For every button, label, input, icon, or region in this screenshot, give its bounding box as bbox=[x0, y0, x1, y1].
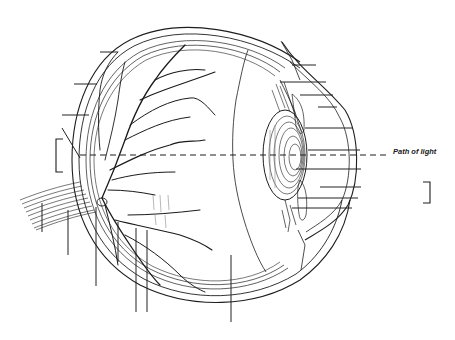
cornea bbox=[282, 42, 357, 240]
right-bracket bbox=[423, 182, 430, 203]
ora-serrata-line bbox=[233, 50, 266, 272]
ciliary-body-iris-upper bbox=[272, 80, 304, 133]
right-label-leaders bbox=[280, 65, 361, 208]
bottom-label-leaders bbox=[42, 203, 231, 322]
path-of-light-label: Path of light bbox=[393, 147, 436, 156]
sclera bbox=[72, 27, 350, 302]
eye-anatomy-diagram bbox=[0, 0, 455, 340]
ciliary-body-iris-lower bbox=[282, 180, 307, 270]
retinal-blood-vessels bbox=[99, 45, 216, 292]
macula-faint-marks bbox=[153, 195, 169, 228]
left-bracket bbox=[56, 139, 63, 172]
optic-nerve bbox=[20, 182, 96, 230]
